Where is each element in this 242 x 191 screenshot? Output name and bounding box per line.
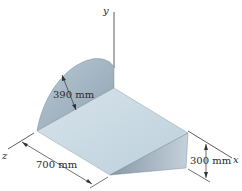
height-label: 300 mm [190,155,232,166]
arrowhead [204,172,208,178]
x-axis-line [188,131,232,158]
radius-label: 390 mm [53,89,95,100]
composite-solid-diagram: y x z 390 mm 700 mm 300 mm [0,0,242,191]
length-label: 700 mm [36,159,78,170]
arrowhead [86,179,92,184]
length-extension-line [90,177,108,188]
arrowhead [204,144,208,150]
z-axis-label: z [1,150,8,161]
y-axis-label: y [102,5,109,16]
arrowhead [22,142,28,147]
x-axis-label: x [233,154,239,165]
diagram-canvas: y x z 390 mm 700 mm 300 mm [0,0,242,191]
